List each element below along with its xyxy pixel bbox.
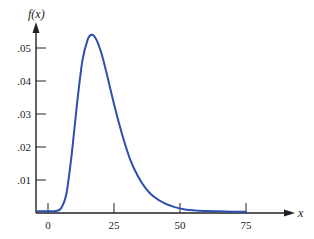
density-chart: .01.02.03.04.050255075f(x)x bbox=[0, 0, 314, 239]
y-tick-label: .04 bbox=[17, 75, 31, 87]
y-tick-label: .02 bbox=[17, 141, 31, 153]
y-tick-label: .05 bbox=[17, 42, 31, 54]
y-tick-label: .03 bbox=[17, 108, 31, 120]
x-tick-label: 75 bbox=[241, 219, 253, 231]
x-axis-arrow-icon bbox=[284, 210, 295, 217]
labels: .01.02.03.04.050255075f(x)x bbox=[17, 7, 304, 231]
curve bbox=[37, 35, 246, 212]
x-tick-label: 0 bbox=[45, 219, 51, 231]
y-tick-label: .01 bbox=[17, 174, 31, 186]
x-tick-label: 50 bbox=[175, 219, 187, 231]
density-curve bbox=[37, 35, 246, 212]
x-axis-title: x bbox=[297, 206, 304, 220]
y-axis-arrow-icon bbox=[33, 22, 40, 33]
x-tick-label: 25 bbox=[109, 219, 121, 231]
y-axis-title: f(x) bbox=[28, 7, 45, 21]
axes bbox=[33, 22, 296, 217]
